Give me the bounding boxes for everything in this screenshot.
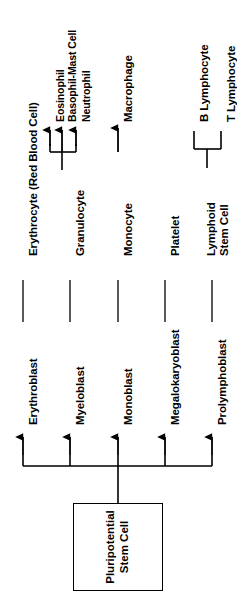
label-neutrophil: Neutrophil	[81, 71, 92, 123]
label-b-lymphocyte: B Lymphocyte	[199, 44, 211, 122]
label-monocyte: Monocyte	[123, 203, 135, 256]
label-lymphoid-stem-cell-line2: Stem Cell	[219, 204, 231, 256]
label-megalokaryoblast: Megalokaryoblast	[170, 329, 182, 425]
stem-cell-line2: Stem Cell	[118, 521, 130, 573]
label-t-lymphocyte: T Lymphocyte	[226, 46, 237, 122]
stem-cell-line1: Pluripotential	[104, 510, 116, 583]
label-eosinophil: Eosinophil	[55, 69, 66, 122]
pluripotential-stem-cell-box: Pluripotential Stem Cell	[73, 503, 163, 591]
label-monoblast: Monoblast	[123, 368, 135, 425]
pluripotential-stem-cell-box-text: Pluripotential Stem Cell	[104, 510, 131, 583]
label-prolymphoblast: Prolymphoblast	[217, 339, 229, 425]
label-erythrocyte: Erythrocyte (Red Blood Cell)	[28, 102, 40, 256]
label-macrophage: Macrophage	[123, 55, 135, 122]
hematopoiesis-diagram: Erythrocyte (Red Blood Cell) Erythroblas…	[0, 0, 237, 594]
label-granulocyte: Granulocyte	[75, 190, 87, 256]
label-basophil-mast-cell: Basophil-Mast Cell	[67, 30, 78, 122]
label-platelet: Platelet	[170, 216, 182, 256]
label-lymphoid-stem-cell-line1: Lymphoid	[206, 202, 218, 256]
label-erythroblast: Erythroblast	[28, 358, 40, 425]
label-myeloblast: Myeloblast	[75, 367, 87, 425]
